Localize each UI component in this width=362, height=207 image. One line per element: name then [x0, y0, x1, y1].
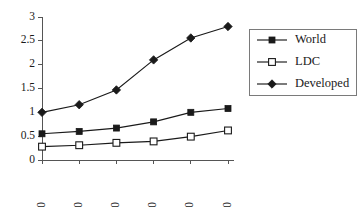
legend-label: LDC: [295, 54, 320, 68]
marker-legend-world: [269, 37, 275, 43]
series-line: [42, 27, 228, 113]
marker-ldc-2000: [225, 127, 232, 134]
x-tick-label: 1960: [72, 202, 84, 207]
chart-legend: WorldLDCDeveloped: [249, 29, 356, 95]
y-tick-label: 1: [29, 105, 35, 117]
y-tick-label: 3: [29, 10, 35, 22]
x-tick-label: 1950: [35, 202, 47, 207]
x-tick-label: 1990: [183, 202, 195, 207]
marker-world-1980: [151, 119, 157, 125]
x-tick-label-group: 195019601970198019902000: [35, 202, 233, 207]
marker-world-1960: [76, 128, 82, 134]
marker-ldc-1950: [39, 143, 46, 150]
series-group: [38, 22, 232, 150]
marker-ldc-1980: [150, 138, 157, 145]
legend-label: Developed: [295, 76, 350, 90]
series-ldc: [39, 127, 232, 150]
x-tick-label: 1970: [109, 202, 121, 207]
marker-developed-1950: [38, 108, 46, 116]
marker-ldc-1960: [76, 142, 83, 149]
marker-developed-2000: [224, 22, 232, 30]
series-line: [42, 109, 228, 134]
legend-label: World: [295, 32, 327, 46]
series-world: [39, 106, 231, 137]
marker-developed-1990: [187, 34, 195, 42]
x-tick-label: 1980: [146, 202, 158, 207]
y-tick-group: [38, 17, 42, 160]
y-tick-label: 2.5: [21, 33, 36, 45]
y-tick-label: 1.5: [21, 81, 36, 93]
marker-legend-ldc: [269, 59, 276, 66]
marker-ldc-1990: [187, 133, 194, 140]
x-axis: 195019601970198019902000: [35, 160, 234, 207]
series-line: [42, 130, 228, 146]
y-tick-label: 0: [29, 153, 35, 165]
marker-world-2000: [225, 106, 231, 112]
y-tick-label-group: 00.511.522.53: [21, 10, 36, 165]
series-developed: [38, 22, 232, 116]
chart-canvas: 00.511.522.53 195019601970198019902000 W…: [0, 0, 362, 207]
marker-developed-1960: [75, 101, 83, 109]
y-tick-label: 2: [29, 57, 35, 69]
y-tick-label: 0.5: [21, 129, 36, 141]
x-tick-label: 2000: [221, 202, 233, 207]
marker-ldc-1970: [113, 139, 120, 146]
marker-world-1950: [39, 131, 45, 137]
marker-world-1970: [113, 125, 119, 131]
line-chart: 00.511.522.53 195019601970198019902000 W…: [0, 0, 362, 207]
y-axis: 00.511.522.53: [21, 10, 42, 165]
x-tick-group: [42, 160, 228, 164]
marker-world-1990: [188, 109, 194, 115]
